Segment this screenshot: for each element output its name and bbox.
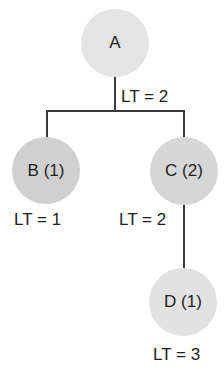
edge-c-to-d [183,204,185,269]
edge-a-to-c [183,110,185,138]
node-c-label: C (2) [165,161,203,181]
node-c-lt-label: LT = 2 [119,211,166,228]
edge-a-branch [46,110,184,112]
node-c: C (2) [150,137,218,205]
node-d-label: D (1) [164,292,202,312]
node-d: D (1) [149,268,217,336]
node-b-label: B (1) [28,161,65,181]
node-b: B (1) [12,137,80,204]
node-a-label: A [109,33,120,53]
node-d-lt-label: LT = 3 [153,346,200,363]
node-a: A [81,9,149,77]
node-a-lt-label: LT = 2 [121,88,168,105]
edge-a-to-b [46,110,48,139]
edge-a-stem [114,76,116,111]
node-b-lt-label: LT = 1 [14,211,61,228]
